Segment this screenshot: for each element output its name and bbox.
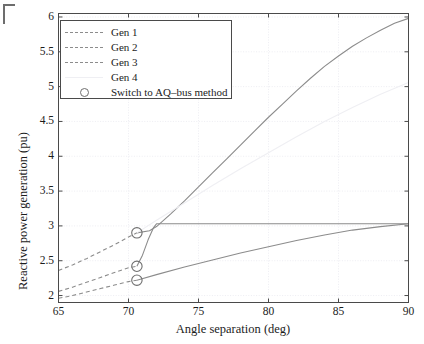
y-axis-title: Reactive power generation (pu) xyxy=(16,132,31,290)
legend-sample-line-icon xyxy=(65,62,103,63)
legend: Gen 1Gen 2Gen 3Gen 4Switch to AQ–bus met… xyxy=(60,20,232,99)
x-axis-title: Angle separation (deg) xyxy=(58,322,408,337)
series-gen-2-dashed xyxy=(59,266,137,291)
legend-item-label: Gen 4 xyxy=(107,72,138,83)
legend-sample-line-icon xyxy=(65,32,103,33)
legend-sample-marker xyxy=(61,86,107,100)
legend-item-label: Gen 1 xyxy=(107,27,138,38)
x-tick-label: 85 xyxy=(333,306,345,318)
y-tick-label: 5.5 xyxy=(22,46,54,58)
series-gen-4-solid xyxy=(137,82,409,232)
legend-item-label: Gen 3 xyxy=(107,57,138,68)
legend-item-label: Switch to AQ–bus method xyxy=(107,87,227,98)
series-gen-2-solid xyxy=(137,224,409,266)
legend-sample-line-icon xyxy=(65,47,103,48)
legend-item-4[interactable]: Gen 4 xyxy=(61,70,231,85)
legend-sample-line xyxy=(61,71,107,85)
legend-item-5[interactable]: Switch to AQ–bus method xyxy=(61,85,231,100)
y-tick-label: 2 xyxy=(22,290,54,302)
y-tick-label: 5 xyxy=(22,81,54,93)
series-gen-1-dashed xyxy=(59,233,137,271)
figure-root: 22.533.544.555.56 657075808590 Angle sep… xyxy=(0,0,424,344)
circle-marker-icon xyxy=(80,88,89,97)
legend-item-2[interactable]: Gen 2 xyxy=(61,40,231,55)
x-tick-label: 90 xyxy=(403,306,415,318)
legend-item-3[interactable]: Gen 3 xyxy=(61,55,231,70)
y-tick-label: 6 xyxy=(22,11,54,23)
legend-sample-line-icon xyxy=(65,77,103,78)
x-tick-label: 70 xyxy=(123,306,135,318)
series-gen-3-solid xyxy=(137,224,409,280)
legend-sample-line xyxy=(61,26,107,40)
x-tick-label: 75 xyxy=(193,306,205,318)
x-tick-label: 80 xyxy=(263,306,275,318)
switch-markers-layer xyxy=(132,228,142,286)
y-tick-label: 4.5 xyxy=(22,116,54,128)
legend-sample-line xyxy=(61,41,107,55)
legend-sample-line xyxy=(61,56,107,70)
legend-item-1[interactable]: Gen 1 xyxy=(61,25,231,40)
legend-item-label: Gen 2 xyxy=(107,42,138,53)
x-tick-label: 65 xyxy=(53,306,65,318)
